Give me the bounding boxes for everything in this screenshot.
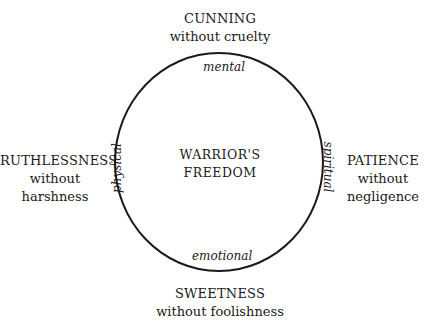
quality-qualifier: without foolishness [140,303,300,321]
axis-label-emotional: emotional [192,249,252,263]
quality-title: SWEETNESS [140,285,300,303]
quality-title: RUTHLESSNESS [0,152,110,170]
center-title-line2: FREEDOM [160,164,280,182]
quality-ruthlessness: RUTHLESSNESS without harshness [0,152,110,206]
center-title-line1: WARRIOR'S [160,146,280,164]
center-title: WARRIOR'S FREEDOM [160,146,280,182]
axis-label-mental: mental [203,60,245,74]
quality-title: PATIENCE [336,152,430,170]
axis-label-physical: physical [110,143,124,193]
quality-qualifier: without cruelty [150,28,290,46]
quality-patience: PATIENCE without negligence [336,152,430,206]
quality-qualifier-2: harshness [0,188,110,206]
quality-qualifier-2: negligence [336,188,430,206]
quality-qualifier: without [0,170,110,188]
quality-title: CUNNING [150,10,290,28]
quality-qualifier: without [336,170,430,188]
axis-label-spiritual: spiritual [321,142,335,193]
quality-cunning: CUNNING without cruelty [150,10,290,46]
quality-sweetness: SWEETNESS without foolishness [140,285,300,321]
